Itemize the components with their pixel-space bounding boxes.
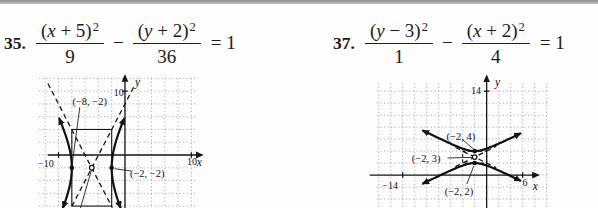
problem-number: 37. — [333, 33, 355, 54]
axes — [48, 76, 202, 208]
numerator-post: + 2) — [481, 20, 517, 41]
exponent: 2 — [422, 20, 428, 34]
axis-letter: x — [532, 180, 539, 192]
point-label: (−2, 4) — [447, 131, 476, 143]
vertex-point — [472, 161, 477, 166]
textbook-page: 35. (x + 5)2 9 − (y + 2)2 36 = 1 37. (y … — [0, 0, 598, 208]
vertex-point — [472, 149, 477, 154]
denominator: 4 — [491, 44, 501, 66]
equals-one: = 1 — [211, 32, 236, 54]
minus-operator: − — [113, 32, 124, 54]
numerator: (x + 2)2 — [462, 20, 530, 44]
leader-lines — [448, 140, 474, 184]
variable: y — [376, 20, 384, 41]
point-label: (−2, 2) — [445, 186, 474, 198]
denominator: 36 — [157, 44, 176, 66]
axis-letter: y — [134, 76, 141, 89]
center-point — [89, 165, 94, 170]
numerator: (x + 5)2 — [36, 20, 104, 44]
problem-37: 37. (y − 3)2 1 − (x + 2)2 4 = 1 — [333, 20, 565, 66]
numerator-post: + 5) — [56, 20, 92, 41]
tick-label: 10 — [187, 156, 197, 167]
numerator: (y − 3)2 — [365, 20, 433, 44]
vertex-point — [70, 165, 75, 170]
problem-number: 35. — [4, 33, 26, 54]
scan-edge-artifact — [0, 0, 598, 4]
point-label: (−8, −2) — [72, 96, 107, 108]
axis-letter: y — [494, 76, 501, 89]
tick-label: −14 — [382, 180, 398, 191]
graph-37: 14−146xy(−2, 4)(−2, 3)(−2, 2) — [355, 75, 573, 208]
exponent: 2 — [93, 20, 99, 34]
hyperbola-branches — [59, 119, 124, 208]
exponent: 2 — [518, 20, 524, 34]
fraction-second: (y + 2)2 36 — [133, 20, 201, 66]
fraction-second: (x + 2)2 4 — [462, 20, 530, 66]
problem-35: 35. (x + 5)2 9 − (y + 2)2 36 = 1 — [4, 20, 236, 66]
point-label: (−2, 3) — [412, 153, 441, 165]
variable: x — [47, 20, 55, 41]
fraction-first: (y − 3)2 1 — [365, 20, 433, 66]
minus-operator: − — [442, 32, 453, 54]
tick-label: −10 — [38, 158, 54, 169]
numerator: (y + 2)2 — [133, 20, 201, 44]
numerator-post: + 2) — [152, 20, 188, 41]
tick-label: 10 — [114, 87, 124, 98]
vertex-point — [109, 165, 114, 170]
equals-one: = 1 — [540, 32, 565, 54]
tick-label: 14 — [471, 85, 481, 96]
graph-35: −101010xy(−8, −2)(−2, −2) — [22, 72, 206, 208]
center-point — [472, 155, 477, 160]
exponent: 2 — [189, 20, 195, 34]
numerator-post: − 3) — [385, 20, 421, 41]
tick-label: 6 — [523, 177, 528, 188]
denominator: 1 — [394, 44, 404, 66]
point-label: (−2, −2) — [130, 168, 165, 180]
axis-letter: x — [196, 156, 203, 168]
fraction-first: (x + 5)2 9 — [36, 20, 104, 66]
denominator: 9 — [65, 44, 75, 66]
